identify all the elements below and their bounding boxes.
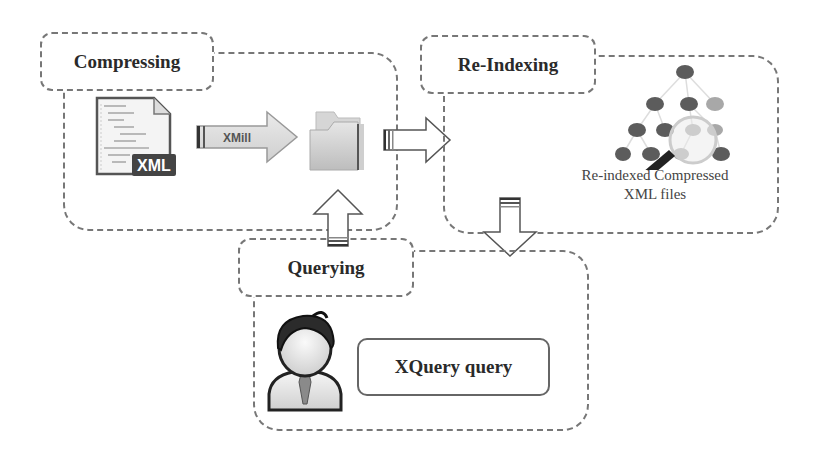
caption-line-2: XML files	[545, 185, 765, 204]
xml-file-icon: XML	[94, 96, 180, 178]
svg-text:XML: XML	[137, 157, 171, 174]
svg-text:XMill: XMill	[223, 131, 251, 145]
reindexing-stage-label: Re-Indexing	[420, 35, 596, 94]
user-avatar-icon	[265, 306, 345, 414]
arrow-right-to-reindexing	[382, 116, 452, 164]
xquery-query-box: XQuery query	[357, 338, 550, 396]
folder-icon	[308, 110, 368, 174]
reindexed-caption: Re-indexed Compressed XML files	[545, 166, 765, 204]
caption-line-1: Re-indexed Compressed	[545, 166, 765, 185]
compressing-stage-label: Compressing	[40, 32, 214, 91]
arrow-up-to-compressing	[310, 188, 366, 250]
tree-search-icon	[615, 60, 745, 170]
xmill-arrow: XMill	[195, 110, 300, 165]
arrow-down-to-querying	[480, 196, 540, 258]
